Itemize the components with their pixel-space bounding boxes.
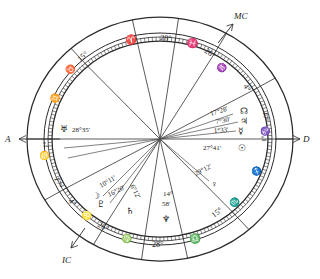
degree-tick <box>220 54 222 57</box>
degree-tick <box>229 214 232 217</box>
cusp-degree-1: 1° <box>42 141 50 148</box>
degree-tick <box>238 207 241 210</box>
degree-tick <box>238 68 241 71</box>
degree-tick <box>261 104 265 105</box>
degree-tick <box>232 63 235 66</box>
degree-tick <box>175 236 176 240</box>
house-cusp-divider-4 <box>141 235 145 260</box>
natal-chart-svg: A D MC IC 26° ♒ 28° ♓ ♈ 15° <box>0 0 320 279</box>
degree-tick <box>122 43 123 47</box>
degree-tick <box>260 101 264 103</box>
degree-tick <box>226 59 228 62</box>
cusp-sign-glyph-1: ♋ <box>39 149 50 161</box>
degree-tick <box>250 194 253 196</box>
wheel-sign-glyph-sagittarius: ♐ <box>250 164 264 178</box>
degree-tick <box>137 235 138 239</box>
mercury-degree: 1°33' <box>214 126 229 135</box>
degree-tick <box>97 54 99 57</box>
house-spoke-11 <box>138 44 160 139</box>
sun-degree: 27°41' <box>203 144 221 152</box>
degree-tick <box>141 39 142 43</box>
aspect-lines <box>64 114 238 203</box>
degree-tick <box>257 94 261 96</box>
jupiter-glyph: ♃ <box>240 116 248 126</box>
degree-tick <box>179 39 180 43</box>
cusp-degree-10: 26° <box>203 46 217 60</box>
cusp-sign-glyph-6: ♏ <box>227 195 242 210</box>
degree-tick <box>263 169 267 170</box>
degree-tick <box>217 222 219 225</box>
degree-tick <box>255 91 259 93</box>
degree-tick <box>182 39 183 43</box>
midheaven-axis: MC <box>218 11 248 43</box>
planet-mercury: 1°33' ☿ <box>214 126 244 136</box>
degree-tick <box>259 98 263 100</box>
uranus-degree: 28°35' <box>72 126 90 134</box>
degree-tick <box>94 56 96 59</box>
planet-uranus: ♅ 28°35' <box>60 124 90 134</box>
degree-tick <box>101 53 103 56</box>
wheel-sign-glyph-aries: ♈ <box>124 33 138 47</box>
degree-tick <box>65 191 68 193</box>
degree-tick <box>217 53 219 56</box>
degree-tick <box>257 182 261 184</box>
venus-degree: 29°12' <box>193 162 213 177</box>
degree-tick <box>53 107 57 108</box>
degree-tick <box>79 68 82 71</box>
sun-glyph: ☉ <box>238 143 246 153</box>
degree-tick <box>252 191 255 193</box>
house-spoke-10 <box>160 43 175 139</box>
degree-tick <box>226 216 228 219</box>
midheaven-label: MC <box>233 11 248 21</box>
degree-tick <box>267 153 271 154</box>
degree-tick <box>111 227 113 231</box>
degree-tick <box>263 107 267 108</box>
degree-tick <box>118 44 120 48</box>
cusp-sign-glyph-4: ♍ <box>120 232 133 245</box>
degree-tick <box>179 236 180 240</box>
degree-tick <box>229 61 232 64</box>
saturn-degree: 6°12' <box>128 183 142 200</box>
degree-tick <box>52 111 56 112</box>
degree-tick <box>186 234 187 238</box>
degree-tick <box>264 166 268 167</box>
degree-tick <box>204 229 206 233</box>
degree-tick <box>235 66 238 69</box>
degree-tick <box>77 71 80 74</box>
pluto-glyph: ♇ <box>97 199 105 209</box>
cusp-degree-8: 17° <box>261 111 270 122</box>
degree-tick <box>63 88 66 90</box>
cusp-sign-glyph-12: ♉ <box>63 61 78 76</box>
house-spoke-12 <box>88 67 160 139</box>
degree-tick <box>247 79 250 81</box>
degree-tick <box>200 44 202 48</box>
degree-tick <box>107 49 109 53</box>
north-node-glyph: ☊ <box>240 106 248 116</box>
degree-tick <box>200 230 202 234</box>
degree-tick <box>214 224 216 227</box>
degree-tick <box>77 205 80 208</box>
degree-tick <box>94 218 96 221</box>
degree-tick <box>72 76 75 78</box>
degree-tick <box>259 179 263 181</box>
degree-tick <box>114 229 116 233</box>
degree-tick <box>50 121 54 122</box>
degree-tick <box>254 188 257 190</box>
imum-coeli-axis: IC <box>61 228 85 265</box>
natal-chart-figure: A D MC IC 26° ♒ 28° ♓ ♈ 15° <box>0 0 320 279</box>
cusp-sign-glyph-11: ♓ <box>185 36 199 50</box>
cusp-degree-11: 28° <box>160 33 172 43</box>
neptune-glyph: ♆ <box>162 214 170 224</box>
degree-tick <box>52 166 56 167</box>
degree-tick <box>266 159 270 160</box>
degree-tick <box>51 163 55 164</box>
degree-tick <box>266 156 270 157</box>
degree-tick <box>114 46 116 50</box>
degree-tick <box>211 226 213 230</box>
degree-tick <box>111 47 113 51</box>
cusp-sign-glyph-8: ♑ <box>260 125 271 137</box>
degree-tick <box>104 51 106 54</box>
degree-tick <box>207 227 209 231</box>
degree-tick <box>235 210 238 213</box>
cusp-degree-labels: 26° ♒ 28° ♓ ♈ 15° ♉ ♊ 1° ♋ 17° 4° ♌ 26° … <box>39 33 271 249</box>
